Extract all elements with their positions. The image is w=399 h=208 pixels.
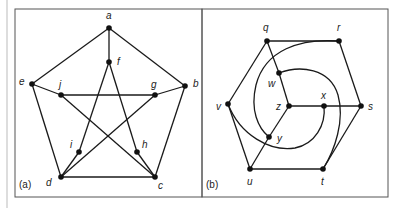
edge-d-e <box>32 84 61 177</box>
panel-b-edges <box>228 41 361 169</box>
edge-e-a <box>32 28 109 84</box>
node-f <box>106 59 112 65</box>
label-z: z <box>275 101 281 112</box>
node-e <box>29 81 35 87</box>
node-h <box>134 149 140 155</box>
edge-e-j <box>32 84 61 95</box>
node-g <box>152 92 158 98</box>
panel-a-edges <box>32 28 185 177</box>
panel-b-nodes <box>225 38 364 172</box>
label-e: e <box>19 76 25 87</box>
label-s: s <box>368 101 373 112</box>
node-w <box>276 70 282 76</box>
node-s <box>358 103 364 109</box>
edge-r-s <box>339 41 361 106</box>
edge-u-v <box>228 104 250 169</box>
label-i: i <box>70 139 73 150</box>
label-f: f <box>117 56 121 67</box>
label-y: y <box>276 133 283 144</box>
node-z <box>286 103 292 109</box>
node-x <box>321 103 327 109</box>
label-h: h <box>142 139 148 150</box>
label-x: x <box>320 90 327 101</box>
label-g: g <box>151 79 157 90</box>
label-w: w <box>268 78 276 89</box>
panel-a-label: (a) <box>19 179 31 190</box>
node-a <box>106 25 112 31</box>
node-v <box>225 101 231 107</box>
label-j: j <box>57 79 62 90</box>
label-t: t <box>321 176 325 187</box>
node-j <box>58 92 64 98</box>
edge-w-t-curved <box>279 69 340 169</box>
panel-b-label: (b) <box>206 179 218 190</box>
label-b: b <box>193 78 199 89</box>
label-d: d <box>46 177 52 188</box>
label-a: a <box>106 10 112 21</box>
label-q: q <box>263 22 269 33</box>
node-i <box>76 149 82 155</box>
label-u: u <box>247 176 253 187</box>
graph-figure: a b c d e f g h i j (a) <box>0 0 399 208</box>
edge-b-c <box>155 86 185 177</box>
label-v: v <box>216 101 222 112</box>
edge-r-y-curved <box>254 41 339 137</box>
node-r <box>336 38 342 44</box>
node-u <box>247 166 253 172</box>
edge-a-b <box>109 28 185 86</box>
node-t <box>320 166 326 172</box>
node-b <box>182 83 188 89</box>
edge-f-h <box>109 62 137 152</box>
label-r: r <box>337 22 341 33</box>
node-d <box>58 174 64 180</box>
node-y <box>266 134 272 140</box>
label-c: c <box>158 180 163 191</box>
edge-b-g <box>155 86 185 95</box>
node-c <box>152 174 158 180</box>
edge-y-u <box>250 137 269 169</box>
node-q <box>264 38 270 44</box>
